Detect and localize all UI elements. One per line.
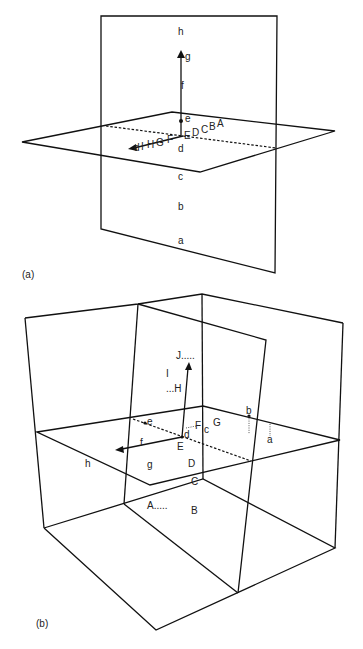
label-d: d [178, 143, 184, 154]
label-b: b [246, 405, 252, 416]
label-a: a [178, 235, 184, 246]
figure-canvas: h g f e d c b a E D C B A F G H I d (a) [0, 0, 363, 649]
label-F: F [167, 134, 173, 145]
label-d-arrow: d [134, 142, 140, 153]
caption-a: (a) [22, 269, 34, 280]
label-E: E [184, 130, 191, 141]
floor-divider [124, 504, 238, 593]
label-B: B [191, 505, 198, 516]
box-right-edge [335, 323, 343, 548]
label-f: f [140, 437, 143, 448]
label-I: I [141, 141, 144, 152]
label-a: a [267, 434, 273, 445]
label-c: c [178, 171, 183, 182]
label-g: g [185, 51, 191, 62]
label-A: A [217, 118, 224, 129]
label-h: h [178, 26, 184, 37]
arrowhead-up-icon [185, 362, 192, 370]
caption-b: (b) [36, 618, 48, 629]
label-h: h [85, 458, 91, 469]
label-B: B [209, 121, 216, 132]
label-A: A..... [147, 500, 168, 511]
label-D: D [192, 127, 199, 138]
label-H: ...H [166, 383, 182, 394]
label-e: e [147, 416, 153, 427]
arrowhead-up-icon [177, 50, 185, 58]
label-b: b [178, 201, 184, 212]
label-f: f [181, 80, 184, 91]
label-I: I [166, 368, 169, 379]
horizontal-plane [22, 112, 335, 172]
label-e: e [185, 113, 191, 124]
arrowhead-left-icon [115, 446, 124, 453]
label-c: c [204, 424, 209, 435]
label-D: D [188, 458, 195, 469]
horizontal-mid-plane [37, 406, 340, 485]
label-F: F [195, 420, 201, 431]
label-J: J..... [176, 350, 195, 361]
box-top-edge [25, 294, 343, 323]
label-G: G [156, 137, 164, 148]
label-C: C [191, 476, 198, 487]
box-left-edge [25, 318, 44, 528]
figure-b: J..... I ...H e F c G b a d E f h g D C … [25, 294, 343, 630]
label-C: C [201, 124, 208, 135]
figure-a: h g f e d c b a E D C B A F G H I d (a) [22, 16, 335, 280]
vertical-arrow [182, 368, 188, 437]
label-g: g [147, 459, 153, 470]
label-G: G [213, 417, 221, 428]
point-e [179, 119, 183, 123]
label-E: E [177, 441, 184, 452]
label-H: H [147, 139, 154, 150]
label-d: d [184, 429, 190, 440]
horizontal-arrow [122, 437, 182, 449]
